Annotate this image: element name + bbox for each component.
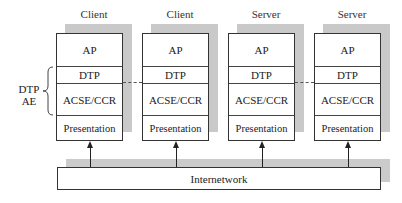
layer-presentation: Presentation: [315, 116, 380, 141]
layer-acse-ccr: ACSE/CCR: [57, 84, 122, 116]
stack-title-2: Client: [146, 8, 214, 20]
stack-title-1: Client: [60, 8, 128, 20]
layer-acse-ccr: ACSE/CCR: [143, 84, 208, 116]
layer-ap: AP: [229, 34, 294, 67]
dtp-ae-label-line1: DTP: [16, 83, 42, 95]
layer-dtp: DTP: [143, 67, 208, 84]
layer-dtp: DTP: [229, 67, 294, 84]
layer-acse-ccr: ACSE/CCR: [229, 84, 294, 116]
protocol-stack-2: AP DTP ACSE/CCR Presentation: [142, 33, 209, 141]
layer-ap: AP: [315, 34, 380, 67]
brace-icon: [42, 66, 54, 116]
layer-presentation: Presentation: [143, 116, 208, 141]
layer-dtp: DTP: [315, 67, 380, 84]
protocol-stack-3: AP DTP ACSE/CCR Presentation: [228, 33, 295, 141]
dtp-ae-label-line2: AE: [16, 95, 42, 107]
layer-ap: AP: [57, 34, 122, 67]
internetwork-box: Internetwork: [57, 167, 381, 190]
protocol-stack-1: AP DTP ACSE/CCR Presentation: [56, 33, 123, 141]
layer-presentation: Presentation: [229, 116, 294, 141]
dtp-connection-server: [295, 82, 314, 83]
layer-dtp: DTP: [57, 67, 122, 84]
protocol-stack-4: AP DTP ACSE/CCR Presentation: [314, 33, 381, 141]
layer-acse-ccr: ACSE/CCR: [315, 84, 380, 116]
layer-ap: AP: [143, 34, 208, 67]
stack-title-3: Server: [232, 8, 300, 20]
stack-title-4: Server: [318, 8, 386, 20]
dtp-ae-label: DTP AE: [16, 83, 42, 107]
dtp-connection-client: [123, 82, 142, 83]
layer-presentation: Presentation: [57, 116, 122, 141]
